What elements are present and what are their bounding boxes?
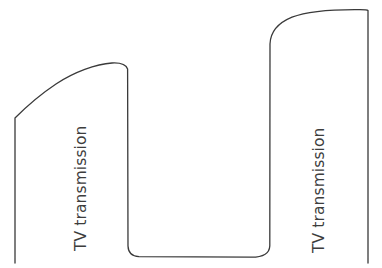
label-tv-transmission-right: TV transmission — [312, 127, 328, 253]
figure-canvas: TV transmission TV transmission — [0, 0, 382, 268]
label-tv-transmission-left: TV transmission — [74, 125, 90, 251]
